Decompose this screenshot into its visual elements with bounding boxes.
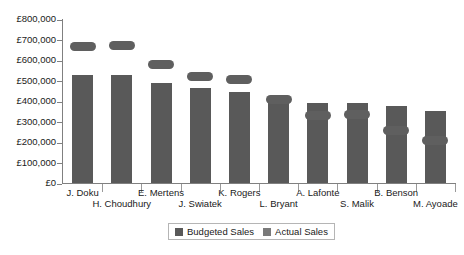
bar-budgeted-sales [386,106,407,184]
marker-actual-sales [70,42,96,51]
y-axis-tick [57,40,62,41]
marker-actual-sales [344,110,370,119]
bar-budgeted-sales [151,83,172,183]
y-axis-tick [57,61,62,62]
y-axis-line [62,19,63,184]
x-axis-category-label: B. Benson [356,187,436,198]
legend-label-actual: Actual Sales [275,226,328,237]
y-axis-tick-label: £400,000 [0,96,56,106]
x-axis-category-label: J. Doku [43,187,123,198]
bar-budgeted-sales [268,98,289,183]
legend-item-budgeted: Budgeted Sales [175,226,254,237]
y-axis-tick-label: £200,000 [0,137,56,147]
bar-budgeted-sales [229,92,250,183]
y-axis-tick [57,81,62,82]
y-axis-tick-label: £800,000 [0,14,56,24]
bar-budgeted-sales [72,75,93,184]
marker-actual-sales [226,75,252,84]
x-axis-category-label: E. Mertens [121,187,201,198]
marker-actual-sales [109,41,135,50]
y-axis-tick-label: £300,000 [0,117,56,127]
legend-swatch-budgeted [175,228,183,236]
x-axis-category-label: A. Lafonte [278,187,358,198]
legend-item-actual: Actual Sales [263,226,328,237]
marker-actual-sales [305,111,331,120]
y-axis-tick [57,20,62,21]
y-axis-tick-label: £700,000 [0,35,56,45]
y-axis-tick [57,102,62,103]
y-axis-tick-label: £100,000 [0,158,56,168]
bar-budgeted-sales [190,88,211,183]
marker-actual-sales [383,126,409,135]
marker-actual-sales [187,72,213,81]
y-axis-tick [57,143,62,144]
x-axis-category-label: J. Swiatek [160,198,240,209]
bar-budgeted-sales [425,111,446,184]
chart-legend: Budgeted Sales Actual Sales [168,223,335,240]
x-axis-category-label: L. Bryant [239,198,319,209]
x-axis-category-label: S. Malik [317,198,397,209]
x-axis-category-tick [455,184,456,192]
marker-actual-sales [422,136,448,145]
x-axis-category-label: K. Rogers [199,187,279,198]
y-axis-tick [57,184,62,185]
x-axis-category-label: M. Ayoade [395,198,464,209]
x-axis-category-label: H. Choudhury [82,198,162,209]
bar-budgeted-sales [111,75,132,184]
y-axis-tick [57,163,62,164]
y-axis-tick [57,122,62,123]
marker-actual-sales [148,60,174,69]
marker-actual-sales [266,95,292,104]
legend-swatch-actual [263,228,271,236]
sales-bar-chart: £0£100,000£200,000£300,000£400,000£500,0… [0,0,464,255]
legend-label-budgeted: Budgeted Sales [187,226,254,237]
y-axis-labels: £0£100,000£200,000£300,000£400,000£500,0… [0,0,56,255]
y-axis-tick-label: £500,000 [0,76,56,86]
y-axis-tick-label: £600,000 [0,55,56,65]
